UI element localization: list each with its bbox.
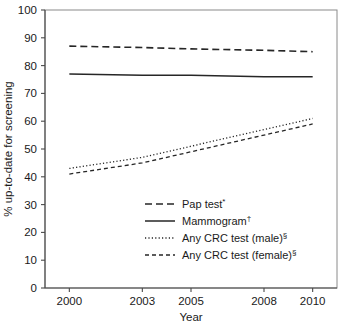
data-series-group bbox=[69, 46, 312, 174]
x-axis-ticks: 20002003200520082010 bbox=[57, 288, 326, 307]
y-axis-ticks: 0102030405060708090100 bbox=[18, 4, 45, 294]
x-tick-label: 2005 bbox=[178, 295, 204, 307]
y-tick-label: 20 bbox=[24, 226, 37, 238]
legend-label-0: Pap test* bbox=[182, 197, 225, 210]
series-line-0 bbox=[69, 46, 312, 52]
chart-container: 0102030405060708090100 20002003200520082… bbox=[0, 0, 349, 322]
y-tick-label: 10 bbox=[24, 254, 37, 266]
y-tick-label: 90 bbox=[24, 32, 37, 44]
y-tick-label: 40 bbox=[24, 171, 37, 183]
line-chart: 0102030405060708090100 20002003200520082… bbox=[0, 0, 349, 322]
series-line-1 bbox=[69, 74, 312, 77]
y-axis-title: % up-to-date for screening bbox=[2, 81, 14, 217]
x-axis-title: Year bbox=[179, 311, 202, 322]
y-tick-label: 80 bbox=[24, 60, 37, 72]
series-line-3 bbox=[69, 124, 312, 174]
y-tick-label: 100 bbox=[18, 4, 37, 16]
y-tick-label: 0 bbox=[31, 282, 37, 294]
x-tick-label: 2003 bbox=[130, 295, 156, 307]
x-tick-label: 2008 bbox=[251, 295, 277, 307]
legend-label-1: Mammogram† bbox=[182, 214, 251, 227]
x-tick-label: 2010 bbox=[300, 295, 326, 307]
y-tick-label: 50 bbox=[24, 143, 37, 155]
chart-legend: Pap test*Mammogram†Any CRC test (male)§A… bbox=[145, 197, 296, 261]
legend-label-2: Any CRC test (male)§ bbox=[182, 231, 287, 244]
x-tick-label: 2000 bbox=[57, 295, 83, 307]
y-tick-label: 30 bbox=[24, 199, 37, 211]
series-line-2 bbox=[69, 118, 312, 168]
y-tick-label: 70 bbox=[24, 87, 37, 99]
y-tick-label: 60 bbox=[24, 115, 37, 127]
legend-label-3: Any CRC test (female)§ bbox=[182, 248, 296, 261]
